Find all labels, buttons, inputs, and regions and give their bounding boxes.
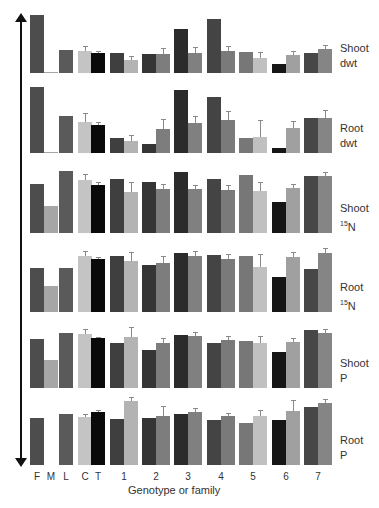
x-tick-L: L xyxy=(59,471,73,482)
bar-6a xyxy=(272,64,286,73)
panel-label: Rootdwt xyxy=(340,121,363,151)
bar-3b xyxy=(188,189,202,233)
bar-M xyxy=(44,72,58,73)
error-bar xyxy=(260,336,261,343)
bar-M xyxy=(44,152,58,153)
bar-7a xyxy=(304,118,318,153)
error-bar xyxy=(260,120,261,137)
error-bar-cap xyxy=(258,120,263,121)
bar-1b xyxy=(124,261,138,312)
error-bar-cap xyxy=(323,248,328,249)
error-bar-cap xyxy=(226,111,231,112)
bar-3a xyxy=(174,414,188,465)
error-bar-cap xyxy=(96,410,101,411)
error-bar xyxy=(260,254,261,267)
error-bar-cap xyxy=(83,113,88,114)
bar-5b xyxy=(253,267,267,312)
error-bar-cap xyxy=(258,52,263,53)
bar-6a xyxy=(272,148,286,153)
bar-F xyxy=(30,418,44,465)
error-bar-cap xyxy=(258,182,263,183)
error-bar-cap xyxy=(161,338,166,339)
error-bar-cap xyxy=(83,174,88,175)
error-bar xyxy=(325,110,326,118)
error-bar xyxy=(228,111,229,120)
bar-F xyxy=(30,339,44,388)
bar-4a xyxy=(207,255,221,312)
bar-3a xyxy=(174,172,188,233)
error-bar-cap xyxy=(258,254,263,255)
bar-4b xyxy=(221,120,235,153)
bar-5b xyxy=(253,343,267,388)
error-bar-cap xyxy=(96,122,101,123)
bar-C xyxy=(78,417,92,465)
error-bar-cap xyxy=(96,337,101,338)
bar-4b xyxy=(221,416,235,465)
bar-7b xyxy=(318,49,332,73)
bar-2b xyxy=(156,343,170,388)
bar-F xyxy=(30,184,44,233)
error-bar-cap xyxy=(258,336,263,337)
panel-label: Shootdwt xyxy=(340,41,369,71)
bar-6b xyxy=(286,128,300,153)
bar-3b xyxy=(188,412,202,465)
bar-4a xyxy=(207,420,221,465)
bar-3b xyxy=(188,256,202,312)
error-bar xyxy=(260,182,261,191)
bar-2a xyxy=(142,265,156,312)
error-bar-cap xyxy=(291,338,296,339)
x-tick-C: C xyxy=(78,471,92,482)
error-bar-cap xyxy=(291,121,296,122)
bar-7a xyxy=(304,53,318,73)
bar-4b xyxy=(221,51,235,73)
bar-L xyxy=(59,116,73,153)
bar-4b xyxy=(221,259,235,312)
x-tick-6: 6 xyxy=(279,471,293,482)
error-bar-cap xyxy=(83,329,88,330)
bar-T xyxy=(91,259,105,312)
bar-1a xyxy=(110,419,124,465)
bar-5a xyxy=(239,423,253,465)
bar-6a xyxy=(272,202,286,233)
bar-6b xyxy=(286,342,300,388)
bar-6a xyxy=(272,420,286,465)
error-bar-cap xyxy=(291,51,296,52)
error-bar-cap xyxy=(291,400,296,401)
bar-T xyxy=(91,185,105,233)
bar-1a xyxy=(110,53,124,73)
bar-3a xyxy=(174,335,188,388)
bar-5b xyxy=(253,58,267,73)
panel-label: ShootP xyxy=(340,356,369,386)
error-bar-cap xyxy=(129,397,134,398)
error-bar xyxy=(85,113,86,122)
error-bar-cap xyxy=(323,45,328,46)
bar-2b xyxy=(156,54,170,73)
bar-5a xyxy=(239,341,253,388)
bar-F xyxy=(30,87,44,153)
bar-6b xyxy=(286,257,300,312)
x-tick-1: 1 xyxy=(117,471,131,482)
bar-T xyxy=(91,53,105,73)
bar-3a xyxy=(174,29,188,73)
bar-C xyxy=(78,256,92,312)
error-bar-cap xyxy=(291,252,296,253)
bar-2a xyxy=(142,54,156,73)
error-bar-cap xyxy=(323,110,328,111)
panel-label: RootP xyxy=(340,433,363,463)
bar-2a xyxy=(142,144,156,153)
bar-1b xyxy=(124,60,138,73)
bar-C xyxy=(78,334,92,388)
error-bar-cap xyxy=(193,408,198,409)
error-bar-cap xyxy=(129,135,134,136)
bar-T xyxy=(91,125,105,153)
error-bar xyxy=(293,121,294,128)
error-bar-cap xyxy=(226,46,231,47)
bar-T xyxy=(91,338,105,388)
x-axis-label: Genotype or family xyxy=(128,484,220,496)
error-bar xyxy=(163,256,164,263)
panel-label: Shoot15N xyxy=(340,201,369,235)
bar-2a xyxy=(142,350,156,388)
bar-5a xyxy=(239,52,253,73)
error-bar-cap xyxy=(193,185,198,186)
bar-L xyxy=(59,414,73,465)
